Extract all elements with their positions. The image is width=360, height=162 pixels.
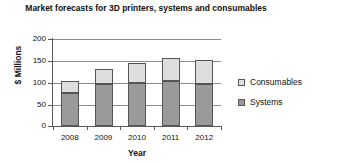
bar-segment-systems-2010[interactable]: [128, 83, 146, 126]
bar-slot-2009: [87, 39, 121, 126]
chart-title: Market forecasts for 3D printers, system…: [22, 3, 270, 14]
bar-group: [53, 39, 221, 126]
x-tick-label-2012: 2012: [187, 133, 221, 142]
bar-2012[interactable]: [195, 60, 213, 126]
y-tick-label-0: 0: [20, 122, 46, 130]
bar-2010[interactable]: [128, 63, 146, 126]
x-tick-mark-0: [53, 126, 54, 130]
legend-label-consumables: Consumables: [250, 78, 302, 87]
legend-item-systems[interactable]: Systems: [238, 98, 302, 107]
x-tick-mark-2: [120, 126, 121, 130]
bar-segment-consumables-2011[interactable]: [162, 58, 180, 81]
legend-swatch-consumables-icon: [238, 79, 245, 86]
x-tick-label-2011: 2011: [154, 133, 188, 142]
stacked-bar-chart: Market forecasts for 3D printers, system…: [0, 0, 360, 162]
legend-item-consumables[interactable]: Consumables: [238, 78, 302, 87]
x-tick-mark-3: [154, 126, 155, 130]
y-tick-label-100: 100: [20, 79, 46, 87]
bar-slot-2011: [154, 39, 188, 126]
bar-segment-systems-2012[interactable]: [195, 84, 213, 126]
legend-swatch-systems-icon: [238, 99, 245, 106]
bar-2009[interactable]: [95, 69, 113, 126]
bar-slot-2012: [187, 39, 221, 126]
bar-slot-2010: [120, 39, 154, 126]
legend-label-systems: Systems: [250, 98, 283, 107]
bar-segment-consumables-2012[interactable]: [195, 60, 213, 84]
y-tick-label-150: 150: [20, 57, 46, 65]
bar-segment-consumables-2009[interactable]: [95, 69, 113, 85]
x-tick-label-2009: 2009: [86, 133, 120, 142]
bar-segment-consumables-2008[interactable]: [61, 81, 79, 92]
bar-segment-systems-2011[interactable]: [162, 81, 180, 126]
y-axis-title: $ Millions: [13, 30, 23, 100]
bar-2011[interactable]: [162, 58, 180, 126]
y-tick-label-50: 50: [20, 101, 46, 109]
bar-2008[interactable]: [61, 81, 79, 126]
x-tick-label-2010: 2010: [120, 133, 154, 142]
bar-segment-systems-2008[interactable]: [61, 93, 79, 126]
bar-slot-2008: [53, 39, 87, 126]
bar-segment-consumables-2010[interactable]: [128, 63, 146, 83]
x-tick-mark-1: [87, 126, 88, 130]
chart-legend: Consumables Systems: [238, 78, 302, 118]
x-tick-label-2008: 2008: [53, 133, 87, 142]
x-tick-mark-5: [221, 126, 222, 130]
y-tick-label-200: 200: [20, 35, 46, 43]
x-axis-line: [52, 126, 222, 127]
x-axis-title: Year: [53, 148, 221, 158]
x-tick-mark-4: [187, 126, 188, 130]
bar-segment-systems-2009[interactable]: [95, 84, 113, 126]
